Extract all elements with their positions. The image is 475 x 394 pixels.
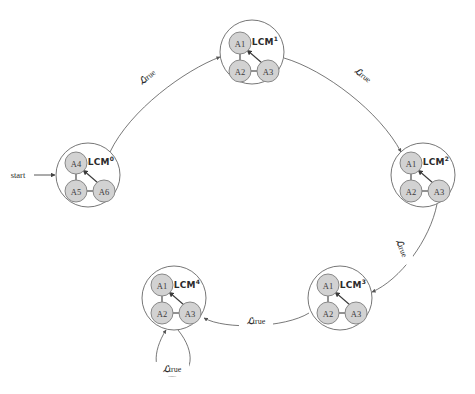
atom-label-a1: A1 [235,39,245,49]
edge-label-group-t0: ℒtrue [129,61,164,93]
edge-label-t4: ℒtrue [163,364,182,374]
state-label-sup-lcm0: 0 [110,155,114,162]
atom-label-a2: A2 [235,67,245,77]
edge-lcm0-to-lcm1 [110,57,220,152]
atom-label-a3: A3 [351,309,361,319]
state-label-text-lcm4: LCM [174,280,196,290]
start-marker: start [11,170,55,180]
state-diagram: start A4 A5 A6 LCM0 [0,0,475,394]
start-label: start [11,170,26,180]
state-node-lcm2[interactable]: A1 A2 A3 LCM2 [391,143,455,207]
state-label-sup-lcm3: 3 [362,278,366,285]
transition-edges [110,57,437,376]
state-label-text-lcm0: LCM [88,157,110,167]
atom-label-a2: A2 [406,187,416,197]
edge-label-group-t2: ℒtrue [389,230,415,267]
state-label-text-lcm3: LCM [340,280,362,290]
atom-label-a5: A5 [71,187,81,197]
atom-label-a6: A6 [99,187,109,197]
atom-label-a3: A3 [434,187,444,197]
edge-label-text-t4: true [169,365,182,374]
edge-label-group-t4: ℒtrue [155,362,189,376]
state-label-text-lcm2: LCM [423,157,445,167]
diagram-canvas: start A4 A5 A6 LCM0 [0,0,475,394]
atom-label-a2: A2 [323,309,333,319]
edge-label-text-t3: true [253,317,266,326]
atom-label-a2: A2 [157,309,167,319]
edge-lcm1-to-lcm2 [284,58,401,152]
atom-label-a4: A4 [71,159,82,169]
state-node-lcm4[interactable]: A1 A2 A3 LCM4 [142,266,206,330]
edge-label-t3: ℒtrue [247,316,266,326]
state-label-sup-lcm1: 1 [274,35,278,42]
state-label-text-lcm1: LCM [252,37,274,47]
state-label-sup-lcm4: 4 [196,278,200,285]
edge-label-group-t1: ℒtrue [345,59,380,91]
state-node-lcm0[interactable]: A4 A5 A6 LCM0 [56,143,120,207]
atom-label-a1: A1 [406,159,416,169]
atom-label-a3: A3 [185,309,195,319]
state-node-lcm1[interactable]: A1 A2 A3 LCM1 [220,20,284,84]
state-node-lcm3[interactable]: A1 A2 A3 LCM3 [308,266,372,330]
atom-label-a1: A1 [323,281,333,291]
atom-label-a3: A3 [263,67,273,77]
atom-label-a1: A1 [157,281,167,291]
edge-label-group-t3: ℒtrue [239,314,273,328]
state-label-sup-lcm2: 2 [445,155,449,162]
